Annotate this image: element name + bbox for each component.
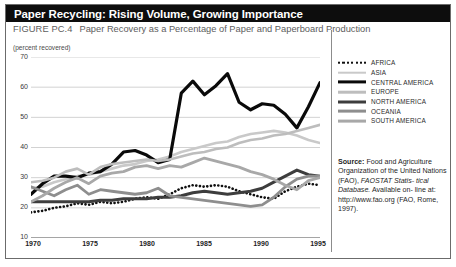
legend-swatch-icon <box>338 58 366 67</box>
figure-screenshot: Paper Recycling: Rising Volume, Growing … <box>0 0 456 267</box>
x-tick-1995: 1995 <box>310 240 326 247</box>
legend-label: AFRICA <box>371 59 395 66</box>
y-axis-unit-label: (percent recovered) <box>13 44 71 51</box>
legend-swatch-icon <box>338 97 366 106</box>
source-line2: Organization of the United <box>338 167 420 175</box>
y-tick-70: 70 <box>8 53 28 60</box>
legend-swatch-icon <box>338 116 366 125</box>
y-tick-40: 40 <box>8 143 28 150</box>
y-tick-50: 50 <box>8 113 28 120</box>
source-line1: Food and Agriculture <box>364 158 431 166</box>
y-tick-60: 60 <box>8 83 28 90</box>
series-lines <box>31 74 320 213</box>
legend-swatch-icon <box>338 68 366 77</box>
legend-label: NORTH AMERICA <box>371 98 426 105</box>
legend-item-north-america[interactable]: NORTH AMERICA <box>338 97 450 107</box>
x-tick-1990: 1990 <box>253 240 269 247</box>
legend-swatch-icon <box>338 107 366 116</box>
legend-item-south-america[interactable]: SOUTH AMERICA <box>338 116 450 126</box>
x-tick-1975: 1975 <box>82 240 98 247</box>
legend-item-africa[interactable]: AFRICA <box>338 58 450 68</box>
legend-divider <box>331 30 332 252</box>
legend-label: CENTRAL AMERICA <box>371 79 433 86</box>
chart-plot-area <box>31 57 320 238</box>
legend-item-asia[interactable]: ASIA <box>338 68 450 78</box>
title-banner: Paper Recycling: Rising Volume, Growing … <box>6 5 450 22</box>
source-note: Source: Food and Agriculture Organizatio… <box>338 158 452 214</box>
legend-item-oceania[interactable]: OCEANIA <box>338 106 450 116</box>
y-tick-30: 30 <box>8 173 28 180</box>
x-tick-1970: 1970 <box>25 240 41 247</box>
figure-caption: FIGURE PC.4Paper Recovery as a Percentag… <box>13 24 370 34</box>
legend-item-central-america[interactable]: CENTRAL AMERICA <box>338 77 450 87</box>
chart-legend: AFRICAASIACENTRAL AMERICAEUROPENORTH AME… <box>338 58 450 126</box>
page-title: Paper Recycling: Rising Volume, Growing … <box>6 8 303 20</box>
y-tick-20: 20 <box>8 203 28 210</box>
legend-swatch-icon <box>338 87 366 96</box>
legend-label: SOUTH AMERICA <box>371 117 426 124</box>
x-tick-1985: 1985 <box>196 240 212 247</box>
source-line4-post: Available on- <box>370 186 412 194</box>
y-tick-10: 10 <box>8 233 28 240</box>
figure-caption-text: Paper Recovery as a Percentage of Paper … <box>79 24 370 34</box>
legend-label: EUROPE <box>371 88 399 95</box>
figure-number: FIGURE PC.4 <box>13 24 72 34</box>
legend-label: ASIA <box>371 69 386 76</box>
x-tick-1980b: 1980 <box>139 240 155 247</box>
legend-swatch-icon <box>338 78 366 87</box>
source-label: Source: <box>338 158 364 166</box>
source-line3-italic: FAOSTAT Statis- <box>361 177 414 185</box>
legend-label: OCEANIA <box>371 108 401 115</box>
legend-item-europe[interactable]: EUROPE <box>338 87 450 97</box>
line-chart-svg <box>31 57 320 238</box>
